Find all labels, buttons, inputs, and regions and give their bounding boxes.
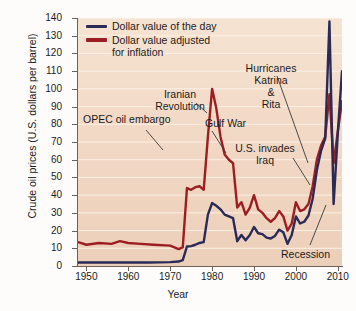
y-tick-label: 0 [22,261,62,271]
x-axis-label: Year [0,288,356,300]
x-tick-label: 1980 [189,271,235,282]
y-tick-label: 120 [22,48,62,58]
y-tick-mark [72,89,77,90]
legend-label-dollar-of-day: Dollar value of the day [112,20,216,33]
chart-legend: Dollar value of the day Dollar value adj… [86,20,216,60]
annotation-us-invades-iraq: U.S. invades Iraq [229,142,301,166]
x-tick-mark [212,266,213,271]
y-tick-mark [72,18,77,19]
x-tick-mark [128,266,129,271]
y-tick-label: 70 [22,137,62,147]
crude-oil-price-chart: Crude oil prices (U.S. dollars per barre… [0,0,356,311]
y-tick-label: 130 [22,31,62,41]
legend-item-inflation-adjusted: Dollar value adjusted for inflation [86,34,216,59]
x-tick-label: 1960 [105,271,151,282]
x-tick-label: 1950 [63,271,109,282]
y-tick-label: 60 [22,155,62,165]
y-tick-label: 110 [22,66,62,76]
y-tick-label: 140 [22,13,62,23]
y-tick-mark [72,177,77,178]
y-tick-label: 30 [22,208,62,218]
x-tick-mark [296,266,297,271]
annotation-hurricanes-katrina-rita: Hurricanes Katrina & Rita [236,62,306,110]
annotation-iranian-revolution: Iranian Revolution [148,88,212,112]
legend-label-inflation-adjusted: Dollar value adjusted for inflation [112,34,210,59]
y-tick-mark [72,36,77,37]
y-tick-mark [72,71,77,72]
x-tick-label: 1970 [147,271,193,282]
y-tick-label: 50 [22,172,62,182]
y-tick-label: 40 [22,190,62,200]
y-axis-line [77,18,78,267]
y-tick-mark [72,107,77,108]
y-tick-label: 10 [22,243,62,253]
legend-swatch-navy [86,25,107,29]
y-tick-mark [72,53,77,54]
y-tick-mark [72,231,77,232]
y-tick-mark [72,124,77,125]
x-tick-label: 2000 [273,271,319,282]
y-tick-label: 90 [22,102,62,112]
y-tick-label: 20 [22,226,62,236]
x-tick-mark [86,266,87,271]
x-tick-label: 1990 [231,271,277,282]
annotation-gulf-war: Gulf War [205,117,246,129]
y-tick-mark [72,160,77,161]
x-tick-mark [338,266,339,271]
y-tick-label: 100 [22,84,62,94]
y-tick-mark [72,248,77,249]
x-tick-mark [254,266,255,271]
y-tick-label: 80 [22,119,62,129]
x-axis-line [77,266,343,267]
y-tick-mark [72,142,77,143]
annotation-opec-oil-embargo: OPEC oil embargo [83,113,171,125]
y-tick-mark [72,266,77,267]
y-tick-mark [72,195,77,196]
annotation-recession: Recession [281,248,330,260]
x-tick-mark [170,266,171,271]
y-tick-mark [72,213,77,214]
x-tick-label: 2010 [315,271,356,282]
legend-swatch-red [86,38,107,42]
y-axis-ticks: 1401301201101009080706050403020100 [18,0,62,311]
legend-item-dollar-of-day: Dollar value of the day [86,20,216,33]
